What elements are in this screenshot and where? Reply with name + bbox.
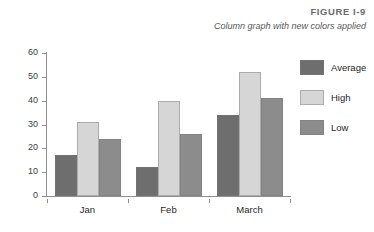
y-axis-tick-label: 10 [28, 166, 38, 176]
legend-swatch-high [300, 90, 324, 105]
y-axis-tick-label: 30 [28, 119, 38, 129]
x-axis-tick-mark [209, 199, 210, 203]
bar-group-jan [55, 53, 121, 196]
bar-average-feb[interactable] [136, 167, 158, 196]
x-axis-tick-mark [290, 199, 291, 203]
legend-label-high: High [331, 92, 351, 103]
y-axis-tick-label: 0 [33, 190, 38, 200]
bar-group-feb [136, 53, 202, 196]
legend-swatch-low [300, 120, 324, 135]
bars-layer [47, 53, 290, 196]
bar-average-march[interactable] [217, 115, 239, 196]
figure-header: FIGURE I-9 Column graph with new colors … [136, 6, 366, 33]
bar-average-jan[interactable] [55, 155, 77, 196]
bar-high-jan[interactable] [77, 122, 99, 196]
x-axis-label-jan: Jan [53, 199, 123, 215]
bar-low-jan[interactable] [99, 139, 121, 196]
bar-low-march[interactable] [261, 98, 283, 196]
y-axis-tick-label: 50 [28, 71, 38, 81]
legend-item-average[interactable]: Average [300, 56, 366, 78]
y-axis-tick-label: 40 [28, 95, 38, 105]
x-axis-label-feb: Feb [134, 199, 204, 215]
x-axis-labels: JanFebMarch [47, 199, 290, 215]
y-axis-tick-mark [42, 196, 47, 197]
legend-label-average: Average [331, 62, 366, 73]
y-axis-tick-label: 20 [28, 142, 38, 152]
figure-caption: Column graph with new colors applied [136, 20, 366, 33]
x-axis-tick-mark [47, 199, 48, 203]
column-chart: 0102030405060 JanFebMarch AverageHighLow [0, 40, 374, 232]
legend-item-low[interactable]: Low [300, 116, 366, 138]
legend-label-low: Low [331, 122, 348, 133]
legend-item-high[interactable]: High [300, 86, 366, 108]
figure-label: FIGURE I-9 [136, 6, 366, 18]
legend-swatch-average [300, 60, 324, 75]
bar-low-feb[interactable] [180, 134, 202, 196]
bar-high-march[interactable] [239, 72, 261, 196]
x-axis-line [46, 196, 291, 197]
plot-area: 0102030405060 [47, 53, 290, 196]
x-axis-label-march: March [215, 199, 285, 215]
bar-high-feb[interactable] [158, 101, 180, 196]
x-axis-tick-mark [128, 199, 129, 203]
bar-group-march [217, 53, 283, 196]
chart-legend: AverageHighLow [300, 56, 366, 146]
y-axis-tick-label: 60 [28, 47, 38, 57]
